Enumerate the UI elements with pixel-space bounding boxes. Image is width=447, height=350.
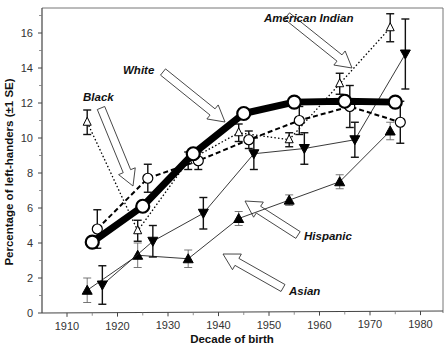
annotation-black: Black [83, 91, 114, 103]
y-axis-ticks: 0246810121416 [21, 16, 42, 320]
data-point-white [237, 107, 250, 120]
data-point-asian [385, 126, 395, 135]
x-axis-title: Decade of birth [190, 333, 274, 345]
data-point-american-indian [235, 128, 243, 136]
annotation-american-indian: American Indian [263, 12, 353, 24]
annotation-hispanic: Hispanic [304, 230, 353, 242]
x-tick-label: 1950 [257, 319, 281, 331]
data-point-white [288, 96, 301, 109]
data-point-hispanic [148, 237, 158, 246]
annotation-arrows [97, 13, 352, 292]
arrow-black [97, 106, 135, 186]
data-point-american-indian [386, 23, 394, 31]
data-point-white [338, 95, 351, 108]
chart: 0246810121416 19101920193019401950196019… [0, 0, 447, 350]
y-tick-label: 4 [27, 237, 33, 249]
data-point-white [389, 96, 402, 109]
x-axis-line [42, 311, 443, 313]
x-axis-ticks: 19101920193019401950196019701980 [55, 311, 433, 332]
data-point-american-indian [83, 117, 91, 125]
y-axis-title: Percentage of left-handers (±1 SE) [3, 78, 15, 265]
y-tick-label: 10 [21, 132, 33, 144]
data-point-black [143, 173, 153, 183]
x-tick-label: 1970 [358, 318, 382, 330]
y-tick-label: 6 [27, 202, 33, 214]
y-tick-label: 2 [27, 272, 33, 284]
series-layer [82, 14, 410, 305]
data-point-white [187, 147, 200, 160]
data-point-white [136, 200, 149, 213]
x-tick-label: 1910 [55, 320, 79, 332]
arrow-white [160, 69, 225, 122]
x-tick-label: 1960 [307, 319, 331, 331]
data-point-hispanic [400, 50, 410, 59]
data-point-black [294, 116, 304, 126]
data-point-black [395, 117, 405, 127]
y-tick-label: 14 [21, 62, 33, 74]
annotation-asian: Asian [288, 285, 320, 297]
data-point-black [244, 135, 254, 145]
y-tick-label: 12 [21, 97, 33, 109]
data-point-american-indian [134, 226, 142, 234]
data-point-white [86, 236, 99, 249]
data-point-hispanic [97, 281, 107, 290]
data-point-asian [234, 214, 244, 223]
data-point-asian [82, 285, 92, 294]
y-tick-label: 0 [27, 307, 33, 319]
y-tick-label: 8 [27, 167, 33, 179]
data-point-american-indian [336, 79, 344, 87]
x-tick-label: 1930 [156, 319, 180, 331]
series-hispanic [97, 19, 410, 304]
x-tick-label: 1920 [105, 320, 129, 332]
annotation-white: White [123, 64, 155, 76]
data-point-hispanic [198, 209, 208, 218]
x-tick-label: 1980 [408, 318, 432, 330]
x-tick-label: 1940 [206, 319, 230, 331]
arrow-asian [223, 254, 285, 291]
data-point-asian [284, 195, 294, 204]
y-tick-label: 16 [21, 27, 33, 39]
